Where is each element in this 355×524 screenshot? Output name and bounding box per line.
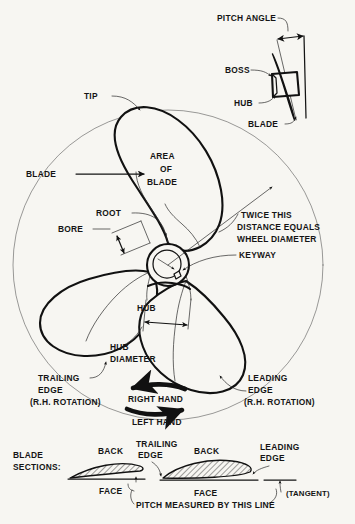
section-trailing-edge-line2: EDGE — [138, 450, 163, 460]
trailing-edge-line1: TRAILING — [38, 373, 80, 383]
right-hand-label: RIGHT HAND — [128, 394, 183, 404]
root-label: ROOT — [96, 208, 122, 218]
radius-note-line2: DISTANCE EQUALS — [237, 222, 320, 232]
bore-label: BORE — [58, 224, 83, 234]
hub-label: HUB — [137, 303, 156, 313]
propeller-diagram-page: PITCH ANGLE BOSS HUB BLADE — [0, 0, 355, 524]
section-leading-edge-line2: EDGE — [260, 453, 285, 463]
boss-label: BOSS — [225, 65, 250, 75]
area-of-blade-line1: AREA — [150, 151, 175, 161]
keyway-label: KEYWAY — [239, 250, 276, 260]
left-hand-label: LEFT HAND — [132, 417, 182, 427]
inset-blade-label: BLADE — [248, 119, 278, 129]
radius-note-line1: TWICE THIS — [241, 210, 292, 220]
left-section-back-label: BACK — [98, 446, 123, 456]
left-section-face-label: FACE — [99, 486, 122, 496]
hub-diameter-line1: HUB — [110, 342, 129, 352]
propeller-diagram-svg: PITCH ANGLE BOSS HUB BLADE — [0, 0, 355, 524]
section-leading-edge-line1: LEADING — [260, 442, 299, 452]
trailing-edge-line3: (R.H. ROTATION) — [30, 397, 101, 407]
right-section-face-label: FACE — [194, 488, 217, 498]
area-of-blade-line2: OF — [160, 164, 172, 174]
blade-label: BLADE — [26, 169, 56, 179]
blade-sections-title-line2: SECTIONS: — [13, 462, 61, 472]
radius-note-line3: WHEEL DIAMETER — [237, 234, 317, 244]
inset-hub-label: HUB — [234, 98, 253, 108]
hub-diameter-line2: DIAMETER — [110, 354, 156, 364]
right-section-back-label: BACK — [194, 446, 219, 456]
blade-sections-title-line1: BLADE — [13, 450, 43, 460]
tangent-label: (TANGENT) — [286, 489, 330, 498]
section-trailing-edge-line1: TRAILING — [136, 439, 178, 449]
area-of-blade-line3: BLADE — [147, 177, 177, 187]
leading-edge-line3: (R.H. ROTATION) — [244, 397, 315, 407]
leading-edge-line2: EDGE — [248, 385, 273, 395]
pitch-line-note-label: PITCH MEASURED BY THIS LINE — [136, 500, 275, 510]
pitch-angle-label: PITCH ANGLE — [217, 13, 276, 23]
tip-label: TIP — [84, 91, 98, 101]
leading-edge-line1: LEADING — [248, 373, 287, 383]
trailing-edge-line2: EDGE — [38, 385, 63, 395]
